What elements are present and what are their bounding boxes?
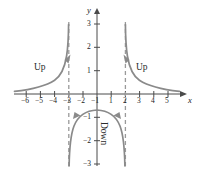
xtick-label-neg1: −1: [91, 97, 99, 105]
xtick-label-neg3: −3: [63, 97, 71, 105]
y-axis-label: y: [87, 6, 91, 15]
left-branch-curve: [15, 25, 69, 92]
xtick-label-neg6: −6: [21, 97, 29, 105]
xtick-label-4: 4: [151, 97, 155, 105]
ytick-label-2: 2: [87, 43, 91, 51]
annotation-up-left: Up: [34, 63, 46, 73]
function-graph-figure: −6 −5 −4 −3 −2 −1 1 2 3 4 5 6 3 2 1 −1 −…: [0, 0, 198, 175]
right-branch-curve: [125, 25, 179, 92]
xtick-label-3: 3: [137, 97, 141, 105]
xtick-label-neg5: −5: [35, 97, 43, 105]
annotation-down-middle: Down: [99, 122, 109, 145]
annotation-up-right: Up: [136, 63, 148, 73]
xtick-label-5: 5: [165, 97, 169, 105]
xtick-label-2: 2: [123, 97, 127, 105]
ytick-label-3: 3: [87, 20, 91, 28]
xtick-label-1: 1: [109, 97, 113, 105]
ytick-label-neg1: −1: [83, 113, 91, 121]
x-axis-label: x: [188, 96, 192, 105]
graph-canvas: [0, 0, 198, 175]
ytick-label-neg2: −2: [83, 137, 91, 145]
xtick-label-neg4: −4: [49, 97, 57, 105]
y-axis-arrowhead: [94, 8, 100, 14]
ytick-label-1: 1: [87, 67, 91, 75]
xtick-label-neg2: −2: [77, 97, 85, 105]
ytick-label-neg3: −3: [83, 160, 91, 168]
x-axis-arrowhead: [180, 91, 187, 97]
